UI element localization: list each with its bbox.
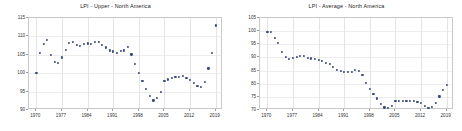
data-point [116,52,118,54]
y-tick-mark [26,35,28,36]
y-tick-label: 70 [230,107,256,112]
data-point [43,43,45,45]
data-point [196,85,198,87]
data-point [376,97,378,99]
gridline-horizontal [260,97,452,98]
data-point [207,67,209,69]
gridline-vertical [190,18,191,108]
data-point [200,86,202,88]
data-point [72,40,74,42]
x-tick-label: 1977 [56,113,66,118]
data-point [391,105,393,107]
gridline-vertical [395,18,396,108]
data-point [413,100,415,102]
y-tick-mark [257,96,259,97]
data-point [149,95,151,97]
gridline-vertical [36,18,37,108]
x-tick-mark [87,109,88,111]
data-point [57,62,59,64]
x-tick-label: 1984 [312,113,322,118]
data-point [325,62,327,64]
x-tick-label: 2019 [210,113,220,118]
x-tick-label: 2019 [441,113,451,118]
data-point [211,51,213,53]
y-tick-mark [26,91,28,92]
y-tick-label: 80 [230,80,256,85]
gridline-vertical [139,18,140,108]
data-point [185,77,187,79]
y-tick-label: 110 [0,33,25,38]
x-tick-mark [215,109,216,111]
data-point [123,49,125,51]
data-point [372,93,374,95]
data-point [442,89,444,91]
y-tick-label: 95 [230,41,256,46]
y-tick-label: 90 [0,107,25,112]
y-tick-mark [257,70,259,71]
data-point [174,76,176,78]
y-tick-mark [257,43,259,44]
data-point [54,61,56,63]
data-point [145,88,147,90]
data-point [65,49,67,51]
data-point [314,58,316,60]
y-tick-label: 75 [230,93,256,98]
y-tick-label: 115 [0,15,25,20]
chart-panel-upper: LPI - Upper - North America 909510010511… [0,0,231,131]
chart-title-average: LPI - Average - North America [231,3,462,9]
x-tick-mark [369,109,370,111]
data-point [178,75,180,77]
y-tick-mark [257,56,259,57]
y-tick-mark [257,30,259,31]
data-point [358,70,360,72]
x-tick-label: 1991 [107,113,117,118]
gridline-horizontal [260,31,452,32]
x-tick-mark [446,109,447,111]
data-point [328,63,330,65]
data-point [127,46,129,48]
data-point [398,100,400,102]
gridline-vertical [164,18,165,108]
data-point [152,99,154,101]
gridline-vertical [293,18,294,108]
data-point [383,106,385,108]
data-point [204,81,206,83]
x-tick-mark [61,109,62,111]
data-point [306,57,308,59]
data-point [274,37,276,39]
gridline-horizontal [260,44,452,45]
data-point [405,100,407,102]
data-point [281,51,283,53]
data-point [182,75,184,77]
y-tick-label: 105 [0,51,25,56]
x-tick-label: 2012 [415,113,425,118]
data-point [46,39,48,41]
data-point [105,46,107,48]
x-tick-mark [318,109,319,111]
x-tick-mark [189,109,190,111]
data-point [431,106,433,108]
x-tick-mark [35,109,36,111]
data-point [141,79,143,81]
data-point [332,66,334,68]
gridline-vertical [370,18,371,108]
x-tick-label: 2012 [184,113,194,118]
x-tick-label: 2005 [389,113,399,118]
data-point [134,63,136,65]
gridline-vertical [113,18,114,108]
y-tick-mark [257,83,259,84]
gridline-horizontal [29,73,221,74]
x-tick-mark [266,109,267,111]
data-point [350,71,352,73]
data-point [101,44,103,46]
chart-title-upper: LPI - Upper - North America [0,3,231,9]
x-tick-label: 1977 [287,113,297,118]
data-point [424,105,426,107]
y-tick-label: 95 [0,88,25,93]
x-tick-label: 1970 [30,113,40,118]
data-point [310,57,312,59]
x-tick-mark [420,109,421,111]
x-tick-label: 1970 [261,113,271,118]
gridline-vertical [216,18,217,108]
x-tick-mark [292,109,293,111]
